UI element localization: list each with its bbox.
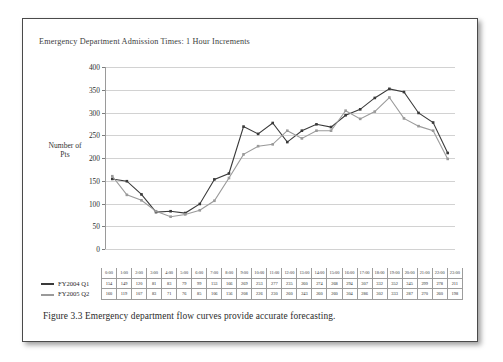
table-data-cell: 269 — [237, 278, 252, 289]
figure-caption: Figure 3.3 Emergency department flow cur… — [43, 311, 463, 321]
series-marker — [373, 110, 376, 113]
series-marker — [126, 180, 129, 183]
table-data-cell: 83 — [147, 289, 162, 300]
table-data-cell: 156 — [222, 289, 237, 300]
series-marker — [359, 118, 362, 121]
series-marker — [155, 210, 158, 213]
table-data-cell: 149 — [117, 278, 132, 289]
table-header-cell: 9:00 — [237, 268, 252, 278]
table-data-cell: 277 — [267, 278, 282, 289]
series-marker — [403, 91, 406, 94]
series-marker — [344, 114, 347, 117]
table-data-cell: 299 — [417, 278, 432, 289]
series-marker — [126, 194, 129, 197]
table-data-cell: 153 — [207, 278, 222, 289]
table-data-cell: 294 — [342, 278, 357, 289]
y-axis-tick-label: 150 — [89, 176, 100, 185]
table-data-cell: 278 — [432, 278, 447, 289]
y-axis-tick-label: 300 — [89, 108, 100, 117]
series-marker — [417, 125, 420, 128]
table-data-cell: 81 — [147, 278, 162, 289]
table-data-cell: 230 — [267, 289, 282, 300]
table-data-cell: 286 — [357, 289, 372, 300]
table-header-cell: 20:00 — [402, 268, 417, 278]
table-data-cell: 352 — [387, 278, 402, 289]
legend-swatch-icon — [41, 294, 54, 296]
table-header-cell: 10:00 — [252, 268, 267, 278]
series-marker — [432, 121, 435, 124]
y-axis-tick-label: 50 — [93, 222, 100, 231]
table-data-cell: 99 — [192, 278, 207, 289]
table-header-cell: 12:00 — [282, 268, 297, 278]
series-marker — [242, 125, 245, 128]
series-marker — [169, 210, 172, 213]
series-marker — [417, 112, 420, 115]
table-data-cell: 83 — [162, 278, 177, 289]
table-data-cell: 154 — [102, 278, 117, 289]
series-marker — [301, 137, 304, 140]
table-header-cell: 19:00 — [387, 268, 402, 278]
table-data-cell: 71 — [162, 289, 177, 300]
series-marker — [213, 178, 216, 181]
table-data-cell: 260 — [297, 278, 312, 289]
y-axis-title-text: Number of Pts — [48, 141, 81, 159]
legend-label: FY2004 Q1 — [58, 280, 89, 287]
series-marker — [330, 129, 333, 132]
y-axis-tick-mark — [102, 67, 105, 68]
y-axis-tick-mark — [102, 113, 105, 114]
series-marker — [388, 88, 391, 91]
table-data-cell: 211 — [447, 278, 462, 289]
table-data-cell: 268 — [327, 278, 342, 289]
table-header-cell: 0:00 — [102, 268, 117, 278]
table-data-cell: 307 — [357, 278, 372, 289]
y-axis-tick-label: 250 — [89, 131, 100, 140]
series-marker — [271, 143, 274, 146]
table-data-cell: 345 — [402, 278, 417, 289]
table-header-cell: 14:00 — [312, 268, 327, 278]
table-data-cell: 119 — [117, 289, 132, 300]
series-marker — [286, 129, 289, 132]
gridline — [105, 249, 455, 250]
page-sheet: Emergency Department Admission Times: 1 … — [22, 18, 478, 342]
y-axis-tick-mark — [102, 204, 105, 205]
table-data-cell: 287 — [402, 289, 417, 300]
table-data-cell: 160 — [102, 289, 117, 300]
table-header-cell: 5:00 — [177, 268, 192, 278]
table-data-cell: 106 — [207, 289, 222, 300]
plot-area: 050100150200250300350400 — [105, 67, 455, 249]
table-data-cell: 270 — [417, 289, 432, 300]
table-header-cell: 23:00 — [447, 268, 462, 278]
y-axis-title: Number of Pts — [43, 141, 87, 160]
table-header-cell: 7:00 — [207, 268, 222, 278]
table-header-cell: 13:00 — [297, 268, 312, 278]
y-axis-tick-label: 350 — [89, 85, 100, 94]
table-header-row: 0:001:002:003:004:005:006:007:008:009:00… — [39, 268, 463, 278]
y-axis-tick-mark — [102, 181, 105, 182]
table-header-cell: 11:00 — [267, 268, 282, 278]
table-header-cell: 1:00 — [117, 268, 132, 278]
series-marker — [271, 122, 274, 125]
table-header-cell: 3:00 — [147, 268, 162, 278]
table-data-cell: 166 — [222, 278, 237, 289]
table-data-cell: 107 — [132, 289, 147, 300]
table-header-cell: 6:00 — [192, 268, 207, 278]
legend-swatch-icon — [41, 283, 54, 285]
series-marker — [330, 126, 333, 129]
table-header-cell: 15:00 — [327, 268, 342, 278]
series-marker — [446, 158, 449, 161]
chart-title: Emergency Department Admission Times: 1 … — [39, 37, 250, 46]
table-row: FY2005 Q21601191078371768510615620822623… — [39, 289, 463, 300]
series-marker — [111, 175, 114, 178]
table-data-cell: 79 — [177, 278, 192, 289]
series-marker — [242, 153, 245, 156]
series-marker — [198, 203, 201, 206]
table-header-cell: 22:00 — [432, 268, 447, 278]
series-marker — [140, 199, 143, 202]
y-axis-tick-mark — [102, 158, 105, 159]
series-marker — [184, 213, 187, 216]
table-data-cell: 333 — [387, 289, 402, 300]
y-axis-tick-mark — [102, 249, 105, 250]
series-line-1 — [112, 97, 447, 216]
table-data-cell: 260 — [312, 289, 327, 300]
series-marker — [432, 129, 435, 132]
